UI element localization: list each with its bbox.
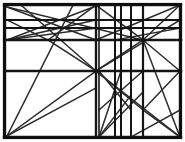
line-diagram-canvas <box>0 0 185 142</box>
line-diagram-svg <box>0 0 185 142</box>
